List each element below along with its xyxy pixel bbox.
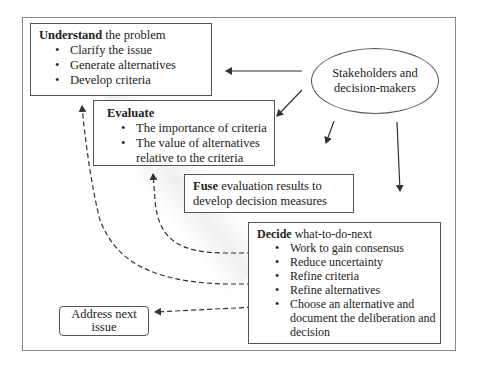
list-item: Develop criteria — [43, 73, 211, 88]
stakeholders-ellipse: Stakeholders and decision-makers — [311, 48, 439, 114]
list-item: Refine alternatives — [263, 283, 440, 297]
understand-list: Clarify the issue Generate alternatives … — [43, 43, 211, 88]
list-item: Choose an alternative and document the d… — [263, 297, 440, 339]
understand-title: Understand the problem — [39, 28, 211, 43]
address-next-box: Address next issue — [59, 306, 149, 336]
evaluate-title: Evaluate — [107, 106, 274, 121]
list-item: The value of alternatives relative to th… — [109, 136, 266, 166]
list-item: Refine criteria — [263, 269, 440, 283]
list-item: The importance of criteria — [109, 121, 274, 136]
fuse-text: Fuse evaluation results to develop decis… — [193, 179, 327, 208]
list-item: Generate alternatives — [43, 58, 211, 73]
list-item: Reduce uncertainty — [263, 255, 440, 269]
fuse-box: Fuse evaluation results to develop decis… — [184, 174, 354, 213]
understand-box: Understand the problem Clarify the issue… — [30, 23, 212, 96]
evaluate-list: The importance of criteria The value of … — [109, 121, 274, 166]
decide-list: Work to gain consensus Reduce uncertaint… — [263, 241, 440, 339]
list-item: Work to gain consensus — [263, 241, 440, 255]
list-item: Clarify the issue — [43, 43, 211, 58]
evaluate-box: Evaluate The importance of criteria The … — [93, 100, 275, 166]
decide-title: Decide what-to-do-next — [257, 227, 440, 241]
decide-box: Decide what-to-do-next Work to gain cons… — [248, 222, 441, 344]
